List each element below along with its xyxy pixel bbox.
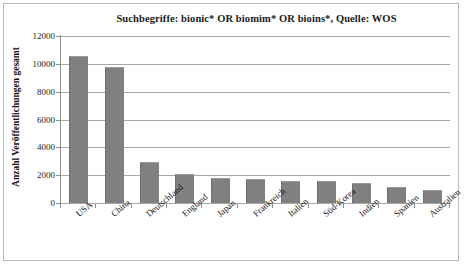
y-axis-tick-label: 6000 bbox=[9, 115, 55, 125]
y-axis-tick-label: 8000 bbox=[9, 87, 55, 97]
bar[interactable] bbox=[175, 174, 194, 203]
bar[interactable] bbox=[105, 67, 124, 203]
x-axis-tick-mark bbox=[308, 204, 309, 208]
y-axis-tick-label: 0 bbox=[9, 198, 55, 208]
bar[interactable] bbox=[246, 179, 265, 203]
bar[interactable] bbox=[423, 190, 442, 203]
x-axis-tick-mark bbox=[166, 204, 167, 208]
gridline bbox=[61, 64, 450, 65]
bar[interactable] bbox=[352, 183, 371, 203]
y-axis-tick-label: 2000 bbox=[9, 170, 55, 180]
y-axis-tick-label: 10000 bbox=[9, 59, 55, 69]
bar[interactable] bbox=[211, 178, 230, 203]
x-axis-tick-mark bbox=[272, 204, 273, 208]
x-axis-tick-mark bbox=[237, 204, 238, 208]
x-axis-tick-mark bbox=[414, 204, 415, 208]
x-axis-tick-mark bbox=[378, 204, 379, 208]
y-axis-tick-labels: 120001000080006000400020000 bbox=[4, 36, 55, 203]
gridline bbox=[61, 203, 450, 204]
x-axis-tick-mark bbox=[201, 204, 202, 208]
bar[interactable] bbox=[69, 56, 88, 203]
bar[interactable] bbox=[317, 181, 336, 203]
x-axis-tick-mark bbox=[343, 204, 344, 208]
y-axis-tick-mark bbox=[56, 175, 60, 176]
x-axis-tick-mark bbox=[449, 204, 450, 208]
bar[interactable] bbox=[281, 181, 300, 203]
y-axis-tick-mark bbox=[56, 36, 60, 37]
x-axis-tick-mark bbox=[131, 204, 132, 208]
y-axis-tick-mark bbox=[56, 64, 60, 65]
y-axis-tick-mark bbox=[56, 147, 60, 148]
gridline bbox=[61, 36, 450, 37]
y-axis-tick-mark bbox=[56, 120, 60, 121]
x-axis-tick-mark bbox=[60, 204, 61, 208]
bar[interactable] bbox=[387, 187, 406, 203]
y-axis-tick-mark bbox=[56, 92, 60, 93]
y-axis-tick-label: 4000 bbox=[9, 142, 55, 152]
bar[interactable] bbox=[140, 162, 159, 203]
y-axis-tick-label: 12000 bbox=[9, 31, 55, 41]
chart-frame: Suchbegriffe: bionic* OR biomim* OR bioi… bbox=[3, 3, 459, 261]
plot-area bbox=[61, 36, 450, 203]
x-axis-tick-mark bbox=[95, 204, 96, 208]
chart-title: Suchbegriffe: bionic* OR biomim* OR bioi… bbox=[64, 13, 449, 24]
